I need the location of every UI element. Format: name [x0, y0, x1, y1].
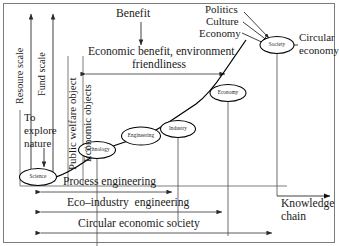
resource-scale-label: Resoure scale	[14, 48, 25, 104]
node-industry-label: Industry	[161, 126, 195, 131]
node-technology-label: Technology	[79, 147, 115, 152]
economic-benefit-line2: friendliness	[132, 59, 186, 71]
explore-nature-line2: explore	[24, 125, 57, 137]
fund-scale-label: Fund scale	[36, 52, 47, 96]
eco-industry-label: Eco–industry engineering	[67, 197, 189, 209]
politics-label: Politics	[205, 4, 238, 16]
explore-nature-line3: nature	[24, 138, 51, 150]
process-engineering-label: Process engineering	[63, 176, 156, 188]
node-society-label: Society	[261, 42, 293, 47]
circular-economy-line2: economy	[299, 45, 339, 57]
node-economy-label: Economy	[211, 90, 245, 95]
culture-label: Culture	[206, 16, 239, 28]
explore-nature-line1: To	[24, 112, 35, 124]
economy-driver-label: Economy	[199, 28, 241, 40]
node-engineering-label: Engineering	[122, 133, 160, 138]
politics-arrow	[244, 12, 269, 38]
circular-society-label: Circular economic society	[78, 218, 200, 230]
economic-benefit-line1: Economic benefit, environment	[88, 46, 234, 58]
circular-economy-line1: Circular	[299, 32, 335, 44]
node-science-label: Science	[23, 174, 53, 179]
knowledge-chain-line1: Knowledge	[281, 198, 334, 210]
knowledge-chain-line2: chain	[281, 211, 306, 223]
culture-arrow	[243, 22, 268, 41]
public-welfare-object-label: Public welfare object	[66, 77, 78, 170]
benefit-label: Benefit	[116, 8, 150, 20]
